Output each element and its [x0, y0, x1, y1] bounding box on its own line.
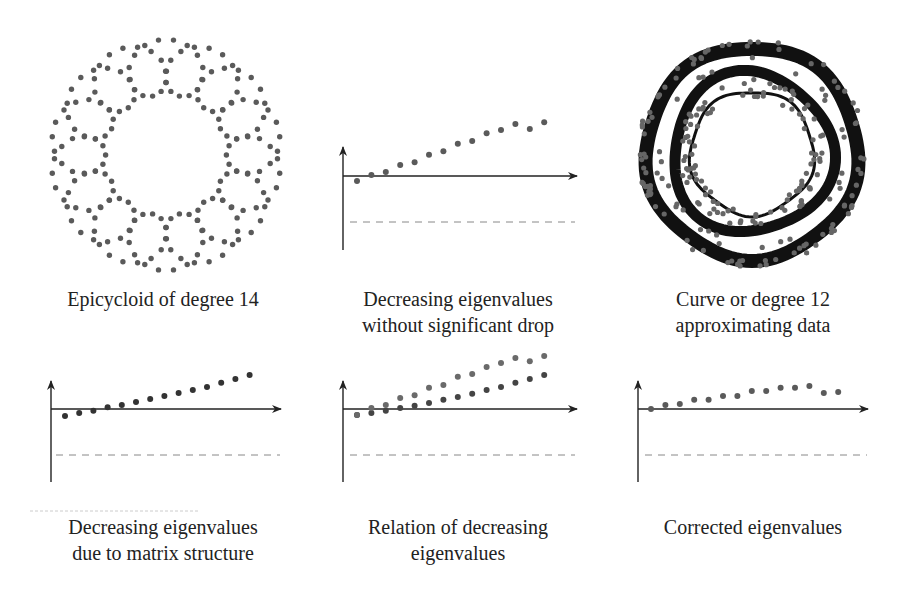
data-point [235, 229, 240, 234]
data-point [200, 240, 205, 245]
data-point [797, 246, 802, 251]
data-point [763, 258, 768, 263]
caption-line: Decreasing eigenvalues [23, 514, 303, 540]
data-point [692, 57, 697, 62]
data-point [701, 248, 706, 253]
data-point [195, 218, 200, 223]
data-point [92, 89, 97, 94]
eigenvalues-no-drop-plot [343, 119, 577, 250]
data-point [224, 152, 229, 157]
data-point [171, 37, 176, 42]
data-point [692, 143, 697, 148]
data-point [675, 66, 680, 71]
data-point [440, 397, 446, 403]
data-point [73, 205, 78, 210]
data-point [226, 162, 231, 167]
data-point [127, 240, 132, 245]
data-point [789, 97, 794, 102]
data-point [469, 371, 475, 377]
data-point [127, 77, 132, 82]
data-point [275, 156, 280, 161]
data-point [50, 134, 55, 139]
data-point [229, 100, 234, 105]
caption-epicycloid: Epicycloid of degree 14 [23, 286, 303, 312]
data-point [817, 156, 822, 161]
data-point [222, 66, 227, 71]
data-point [738, 220, 743, 225]
data-point [685, 134, 690, 139]
data-point [690, 247, 695, 252]
data-point [230, 242, 235, 247]
data-point [220, 107, 225, 112]
data-point [680, 173, 685, 178]
data-point [683, 119, 688, 124]
data-point [72, 127, 77, 132]
data-point [727, 221, 732, 226]
data-points [648, 383, 841, 412]
data-point [111, 188, 116, 193]
data-point [653, 204, 658, 209]
data-point [715, 201, 720, 206]
data-point [159, 247, 164, 252]
data-point [236, 68, 241, 73]
data-point [656, 93, 661, 98]
data-point [210, 109, 215, 114]
data-point [120, 46, 125, 51]
data-point [849, 203, 854, 208]
data-point [748, 39, 753, 44]
caption-line: Decreasing eigenvalues [318, 286, 598, 312]
data-point [823, 93, 828, 98]
data-point [731, 206, 736, 211]
data-point [255, 178, 260, 183]
data-point [102, 133, 107, 138]
data-point [218, 179, 223, 184]
data-point [135, 45, 140, 50]
data-points [354, 353, 547, 418]
data-point [164, 236, 169, 241]
data-point [195, 97, 200, 102]
data-point [107, 253, 112, 258]
data-point [62, 413, 68, 419]
data-point [793, 71, 798, 76]
data-point [717, 241, 722, 246]
data-point [245, 171, 250, 176]
data-point [641, 165, 646, 170]
data-point [469, 391, 475, 397]
data-point [527, 376, 533, 382]
data-point [66, 115, 71, 120]
data-point [792, 250, 797, 255]
data-point [813, 243, 818, 248]
data-point [822, 98, 827, 103]
data-point [648, 406, 654, 412]
data-point [647, 110, 652, 115]
data-point [92, 215, 97, 220]
data-point [802, 106, 807, 111]
data-point [804, 250, 809, 255]
data-point [61, 107, 66, 112]
data-point [98, 205, 103, 210]
data-point [126, 105, 131, 110]
data-point [706, 397, 712, 403]
data-point [440, 382, 446, 388]
data-point [132, 252, 137, 257]
data-point [527, 358, 533, 364]
data-point [93, 169, 98, 174]
data-point [103, 152, 108, 157]
data-point [700, 106, 705, 111]
data-point [135, 260, 140, 265]
data-point [109, 126, 114, 131]
caption-line: without significant drop [318, 312, 598, 338]
data-point [159, 58, 164, 63]
data-point [737, 259, 742, 264]
data-point [148, 49, 153, 54]
data-point [812, 116, 817, 121]
data-point [70, 169, 75, 174]
data-point [855, 108, 860, 113]
data-point [648, 191, 653, 196]
data-point [753, 221, 758, 226]
data-point [702, 100, 707, 105]
data-point [660, 176, 665, 181]
data-point [186, 212, 191, 217]
data-point [107, 52, 112, 57]
data-point [232, 376, 238, 382]
